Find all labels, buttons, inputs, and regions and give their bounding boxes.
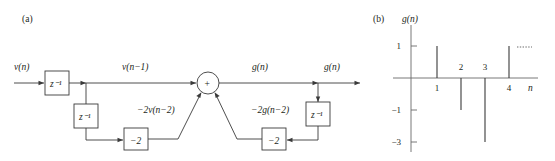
block-delay-2-label: z⁻¹ xyxy=(78,112,91,122)
x-axis-label: n xyxy=(528,83,533,93)
panel-a: (a) v(n) z⁻¹ v(n−1) z⁻¹ xyxy=(14,14,360,150)
y-tick-label-1: 1 xyxy=(397,41,402,51)
wire-gain-right-diag xyxy=(217,97,237,139)
label-vn-minus-1: v(n−1) xyxy=(122,62,148,73)
x-tick-label-3: 3 xyxy=(483,62,488,72)
label-minus2-vn2: −2v(n−2) xyxy=(137,105,175,116)
y-tick-label-minus-3: −3 xyxy=(391,137,401,147)
y-tick-label-minus-1: −1 xyxy=(391,105,401,115)
figure-container: (a) v(n) z⁻¹ v(n−1) z⁻¹ xyxy=(0,0,555,161)
summing-junction-label: + xyxy=(205,79,210,89)
arrowhead-branch-g xyxy=(313,81,319,85)
arrowhead-input xyxy=(39,81,45,85)
block-delay-3-label: z⁻¹ xyxy=(310,110,323,120)
arrowhead-branch-1 xyxy=(81,81,87,85)
panel-a-label: (a) xyxy=(22,14,33,25)
x-tick-label-1: 1 xyxy=(435,83,440,93)
arrowhead-adder-in-left xyxy=(196,92,201,98)
arrowhead-output xyxy=(355,81,361,85)
label-minus2-gn2: −2g(n−2) xyxy=(251,105,289,116)
arrowhead-adder-in xyxy=(191,81,197,85)
wire-gain-left-diag xyxy=(178,97,199,139)
panel-b-label: (b) xyxy=(373,14,384,25)
x-tick-label-4: 4 xyxy=(507,83,512,93)
arrowhead-gain-right-in xyxy=(287,138,293,142)
block-gain-right-label: −2 xyxy=(268,136,279,146)
arrowhead-gain-left-in xyxy=(118,138,124,142)
label-gn-sum: g(n) xyxy=(252,62,268,73)
label-input-vn: v(n) xyxy=(14,62,29,73)
x-tick-label-2: 2 xyxy=(459,62,464,72)
arrowhead-adder-in-right xyxy=(215,92,220,98)
block-gain-left-label: −2 xyxy=(130,136,141,146)
panel-b: (b) g(n) n 1 −1 −3 1 2 3 4 xyxy=(373,14,538,152)
figure-svg: (a) v(n) z⁻¹ v(n−1) z⁻¹ xyxy=(0,0,555,161)
block-delay-1-label: z⁻¹ xyxy=(49,79,62,89)
label-gn-output: g(n) xyxy=(324,62,340,73)
arrowhead-delay3-in xyxy=(316,97,320,103)
chart-title: g(n) xyxy=(402,14,418,25)
